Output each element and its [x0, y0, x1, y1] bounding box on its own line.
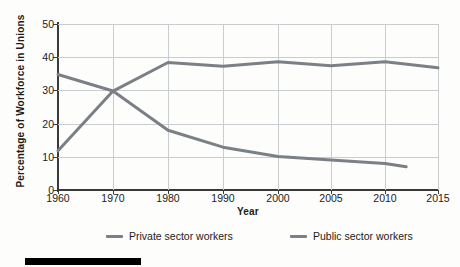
- x-tick-label-2005: 2005: [306, 192, 356, 204]
- y-tick-label-30: 30: [14, 84, 54, 96]
- x-axis-title: Year: [58, 206, 438, 217]
- x-tick-label-1970: 1970: [88, 192, 138, 204]
- legend-item-private-sector-workers[interactable]: Private sector workers: [106, 228, 233, 244]
- line-chart-figure: Percentage of Workforce in Unions 50 40 …: [0, 0, 460, 267]
- y-tick-label-20: 20: [14, 118, 54, 130]
- legend-swatch-icon-public: [290, 235, 307, 238]
- x-tick-label-2010: 2010: [360, 192, 410, 204]
- gridline-vertical-2015: [438, 24, 439, 190]
- series-container: [58, 24, 438, 190]
- legend-swatch-icon-private: [106, 235, 123, 238]
- chart-legend: Private sector workers Public sector wor…: [58, 228, 438, 244]
- x-tick-label-1980: 1980: [143, 192, 193, 204]
- legend-item-public-sector-workers[interactable]: Public sector workers: [290, 228, 413, 244]
- y-tick-label-40: 40: [14, 51, 54, 63]
- y-tick-label-10: 10: [14, 151, 54, 163]
- series-line-public-sector-workers: [58, 62, 438, 151]
- x-tick-label-2015: 2015: [413, 192, 460, 204]
- legend-label-private: Private sector workers: [129, 230, 233, 242]
- x-tick-label-2000: 2000: [253, 192, 303, 204]
- x-tick-label-1990: 1990: [198, 192, 248, 204]
- x-tick-label-1960: 1960: [33, 192, 83, 204]
- y-axis-title: Percentage of Workforce in Unions: [12, 6, 30, 196]
- plot-area: [58, 24, 438, 190]
- series-line-private-sector-workers: [58, 74, 406, 166]
- footer-black-bar: [25, 258, 141, 265]
- legend-label-public: Public sector workers: [313, 230, 413, 242]
- y-tick-label-50: 50: [14, 18, 54, 30]
